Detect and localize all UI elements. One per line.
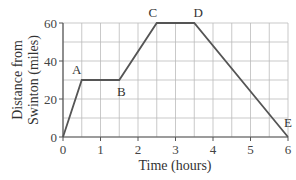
y-tick-label: 0: [51, 130, 58, 145]
axes: [59, 23, 288, 141]
x-tick-label: 4: [210, 142, 217, 157]
y-axis-label: Distance from Swinton (miles): [10, 35, 42, 125]
x-tick-label: 2: [135, 142, 142, 157]
point-label-a: A: [72, 62, 82, 77]
y-tick-label: 60: [44, 16, 57, 31]
x-tick-label: 0: [60, 142, 67, 157]
x-tick-label: 3: [172, 142, 179, 157]
y-tick-labels: 0204060: [44, 16, 57, 145]
x-tick-label: 5: [247, 142, 254, 157]
x-tick-labels: 0123456: [60, 142, 292, 157]
y-axis-label-line-2: Swinton (miles): [26, 35, 42, 125]
y-tick-label: 20: [44, 92, 57, 107]
x-axis-label: Time (hours): [139, 158, 212, 174]
y-axis-label-line-1: Distance from: [10, 40, 25, 120]
x-tick-label: 6: [285, 142, 292, 157]
y-tick-label: 40: [44, 54, 57, 69]
point-label-d: D: [194, 5, 203, 20]
point-label-e: E: [284, 115, 292, 130]
x-tick-label: 1: [97, 142, 104, 157]
point-label-b: B: [117, 84, 126, 99]
distance-time-chart: 0123456 0204060 ABCDE Time (hours) Dista…: [0, 0, 296, 180]
point-label-c: C: [148, 5, 157, 20]
